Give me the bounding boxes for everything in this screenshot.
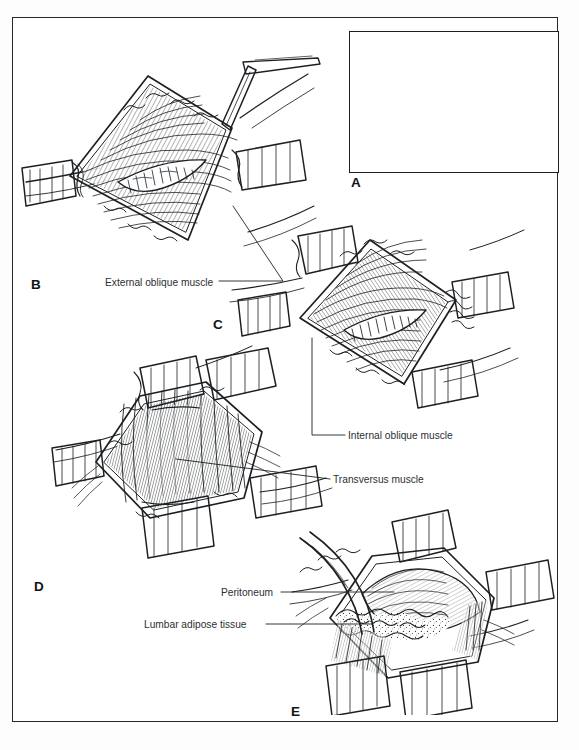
- panel-letter-d: D: [34, 580, 44, 594]
- panel-letter-c: C: [213, 318, 223, 332]
- label-internal-oblique-muscle: Internal oblique muscle: [348, 431, 453, 441]
- panel-letter-b: B: [31, 278, 41, 292]
- label-transversus-muscle: Transversus muscle: [333, 475, 424, 485]
- surgical-anatomy-figure: A B C D E External oblique muscle Intern…: [0, 0, 579, 750]
- label-lumbar-adipose-tissue: Lumbar adipose tissue: [144, 620, 247, 630]
- panel-letter-a: A: [351, 176, 361, 190]
- label-external-oblique-muscle: External oblique muscle: [105, 278, 213, 288]
- label-peritoneum: Peritoneum: [221, 588, 273, 598]
- panel-a-inset-frame: [349, 31, 559, 173]
- panel-letter-e: E: [291, 705, 300, 719]
